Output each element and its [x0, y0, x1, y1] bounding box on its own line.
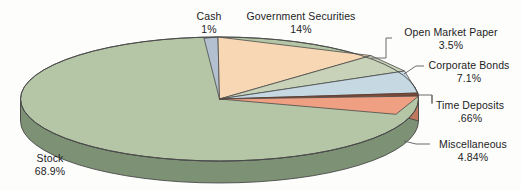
slice-label-corporate-bonds-name: Corporate Bonds [420, 59, 518, 72]
slice-label-time-deposits-value: .66% [424, 112, 516, 125]
slice-label-government-securities-value: 14% [238, 23, 364, 36]
slice-label-miscellaneous-value: 4.84% [428, 151, 518, 164]
slice-label-open-market-paper: Open Market Paper 3.5% [390, 26, 512, 51]
leader-line-open-market-paper [371, 38, 392, 58]
slice-label-stock-value: 68.9% [22, 165, 78, 178]
slice-label-government-securities-name: Government Securities [238, 10, 364, 23]
slice-label-cash-name: Cash [186, 10, 232, 23]
slice-label-miscellaneous-name: Miscellaneous [428, 138, 518, 151]
slice-label-miscellaneous: Miscellaneous 4.84% [428, 138, 518, 163]
slice-label-stock-name: Stock [22, 152, 78, 165]
slice-label-cash-value: 1% [186, 23, 232, 36]
slice-label-corporate-bonds-value: 7.1% [420, 72, 518, 85]
slice-label-cash: Cash 1% [186, 10, 232, 35]
pie-top-face [21, 37, 419, 161]
pie-chart-figure: Cash 1% Government Securities 14% Open M… [0, 0, 521, 190]
slice-label-time-deposits: Time Deposits .66% [424, 99, 516, 124]
slice-label-corporate-bonds: Corporate Bonds 7.1% [420, 59, 518, 84]
slice-label-government-securities: Government Securities 14% [238, 10, 364, 35]
slice-label-open-market-paper-name: Open Market Paper [390, 26, 512, 39]
slice-label-open-market-paper-value: 3.5% [390, 39, 512, 52]
slice-label-time-deposits-name: Time Deposits [424, 99, 516, 112]
slice-label-stock: Stock 68.9% [22, 152, 78, 177]
